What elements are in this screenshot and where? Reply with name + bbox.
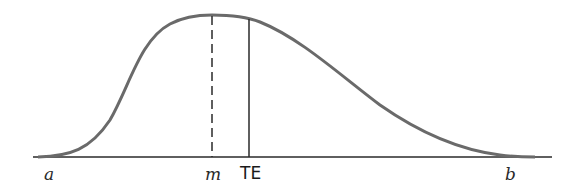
- label-a: a: [44, 164, 54, 184]
- label-te: TE: [239, 163, 261, 183]
- distribution-diagram: a m TE b: [0, 0, 571, 188]
- distribution-curve: [38, 15, 535, 157]
- label-m: m: [205, 164, 221, 184]
- label-b: b: [505, 164, 516, 184]
